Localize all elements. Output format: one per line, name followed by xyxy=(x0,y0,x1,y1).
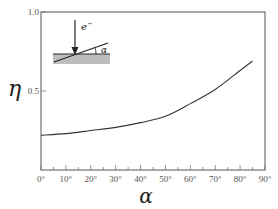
x-tick-label: 30° xyxy=(109,174,122,184)
data-line xyxy=(41,61,253,135)
x-axis-ticks: 0°10°20°30°40°50°60°70°80°90° xyxy=(37,165,272,184)
y-axis-label: η xyxy=(8,76,21,101)
chart: 0.51.0 0°10°20°30°40°50°60°70°80°90° η α… xyxy=(0,0,278,209)
angle-label: α xyxy=(101,45,107,55)
x-axis-label: α xyxy=(139,184,153,208)
angle-arc xyxy=(95,48,96,55)
inset-diagram: e− α xyxy=(53,20,110,64)
x-tick-label: 70° xyxy=(209,174,222,184)
y-axis-ticks: 0.51.0 xyxy=(28,7,46,96)
x-tick-label: 0° xyxy=(37,174,46,184)
x-tick-label: 60° xyxy=(184,174,197,184)
x-tick-label: 40° xyxy=(134,174,147,184)
x-tick-label: 90° xyxy=(259,174,272,184)
y-tick-label: 1.0 xyxy=(28,7,40,17)
x-tick-label: 20° xyxy=(84,174,97,184)
x-tick-label: 50° xyxy=(159,174,172,184)
x-tick-label: 80° xyxy=(234,174,247,184)
y-tick-label: 0.5 xyxy=(28,86,40,96)
x-tick-label: 10° xyxy=(60,174,73,184)
electron-label: e− xyxy=(81,20,93,32)
